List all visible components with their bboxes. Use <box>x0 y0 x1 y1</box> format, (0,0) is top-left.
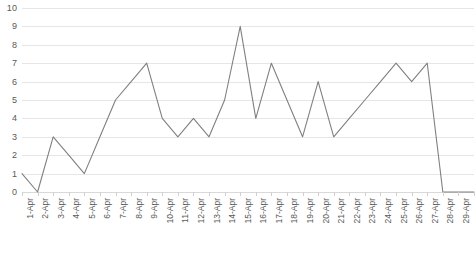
x-axis-tickmark <box>193 192 194 196</box>
plot-area <box>22 8 474 192</box>
y-axis-tick-label: 5 <box>12 96 17 105</box>
x-axis-tick-label: 24-Apr <box>384 198 393 224</box>
x-axis-tickmark <box>427 192 428 196</box>
x-axis-tick-label: 22-Apr <box>353 198 362 224</box>
x-axis-tickmark <box>396 192 397 196</box>
x-axis-tick-label: 7-Apr <box>119 198 128 219</box>
x-axis-tickmark <box>271 192 272 196</box>
y-axis-tick-label: 7 <box>12 59 17 68</box>
x-axis-tick-label: 25-Apr <box>400 198 409 224</box>
x-axis-tickmark <box>131 192 132 196</box>
x-axis-tickmark <box>380 192 381 196</box>
x-axis-tickmark <box>225 192 226 196</box>
x-axis-tick-label: 20-Apr <box>322 198 331 224</box>
x-axis-tickmark <box>365 192 366 196</box>
x-axis-tick-label: 28-Apr <box>446 198 455 224</box>
series-line <box>22 8 474 192</box>
x-axis-tick-label: 29-Apr <box>462 198 471 224</box>
x-axis-tick-label: 2-Apr <box>41 198 50 219</box>
x-axis-tickmark <box>100 192 101 196</box>
x-axis-tick-label: 27-Apr <box>431 198 440 224</box>
x-axis-tickmark <box>162 192 163 196</box>
y-axis-tick-label: 2 <box>12 151 17 160</box>
x-axis-tickmark <box>116 192 117 196</box>
x-axis-tick-label: 12-Apr <box>197 198 206 224</box>
x-axis-tick-label: 14-Apr <box>228 198 237 224</box>
x-axis-tickmark <box>178 192 179 196</box>
x-axis-tick-label: 13-Apr <box>213 198 222 224</box>
x-axis-tickmark <box>209 192 210 196</box>
x-axis-tickmark <box>240 192 241 196</box>
x-axis-tickmark <box>147 192 148 196</box>
x-axis-tick-label: 18-Apr <box>290 198 299 224</box>
x-axis-tick-label: 8-Apr <box>135 198 144 219</box>
y-axis: 109876543210 <box>0 8 20 192</box>
x-axis-tickmark <box>318 192 319 196</box>
x-axis-tick-label: 6-Apr <box>103 198 112 219</box>
x-axis: 1-Apr2-Apr3-Apr4-Apr5-Apr6-Apr7-Apr8-Apr… <box>22 192 474 263</box>
y-axis-tick-label: 8 <box>12 40 17 49</box>
x-axis-tickmark <box>84 192 85 196</box>
x-axis-tick-label: 10-Apr <box>166 198 175 224</box>
y-axis-tick-label: 4 <box>12 114 17 123</box>
x-axis-tick-label: 26-Apr <box>415 198 424 224</box>
x-axis-tick-label: 1-Apr <box>26 198 35 219</box>
x-tickmarks <box>22 192 474 196</box>
x-axis-tick-label: 15-Apr <box>244 198 253 224</box>
x-axis-tickmark <box>443 192 444 196</box>
line-chart: 109876543210 1-Apr2-Apr3-Apr4-Apr5-Apr6-… <box>0 0 475 263</box>
x-axis-tick-label: 16-Apr <box>259 198 268 224</box>
x-axis-tick-label: 11-Apr <box>181 198 190 223</box>
x-axis-tick-label: 19-Apr <box>306 198 315 224</box>
y-axis-tick-label: 9 <box>12 22 17 31</box>
x-axis-tickmark <box>458 192 459 196</box>
x-axis-tick-label: 23-Apr <box>368 198 377 224</box>
x-axis-tickmark <box>22 192 23 196</box>
x-axis-tickmark <box>412 192 413 196</box>
x-axis-tickmark <box>303 192 304 196</box>
x-axis-tickmark <box>69 192 70 196</box>
x-axis-tick-label: 4-Apr <box>72 198 81 219</box>
y-axis-tick-label: 1 <box>12 169 17 178</box>
series-polyline <box>22 26 474 192</box>
y-axis-tick-label: 3 <box>12 132 17 141</box>
x-axis-tick-label: 3-Apr <box>57 198 66 219</box>
x-axis-tick-label: 17-Apr <box>275 198 284 224</box>
x-axis-tick-label: 21-Apr <box>337 198 346 224</box>
x-axis-tickmark <box>287 192 288 196</box>
y-axis-tick-label: 0 <box>12 188 17 197</box>
x-axis-tick-label: 9-Apr <box>150 198 159 219</box>
x-axis-tickmark <box>256 192 257 196</box>
x-axis-tick-label: 5-Apr <box>88 198 97 219</box>
x-axis-tickmark <box>349 192 350 196</box>
x-axis-tickmark <box>334 192 335 196</box>
x-axis-tickmark <box>53 192 54 196</box>
y-axis-tick-label: 10 <box>7 4 17 13</box>
y-axis-tick-label: 6 <box>12 77 17 86</box>
x-axis-tickmark <box>38 192 39 196</box>
